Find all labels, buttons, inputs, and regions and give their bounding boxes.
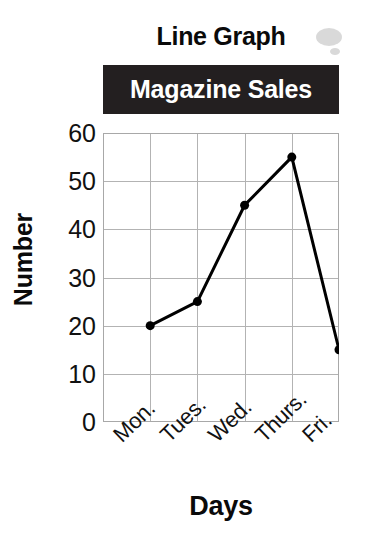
x-axis-tick-label: Thurs. bbox=[250, 387, 312, 448]
x-axis-tick-label: Wed. bbox=[203, 394, 257, 448]
line-graph-figure: Line Graph Magazine Sales 0102030405060 … bbox=[0, 0, 367, 559]
x-axis-title: Days bbox=[103, 491, 339, 522]
x-axis-tick-label: Tues. bbox=[155, 392, 211, 448]
x-axis-tick-labels: Mon.Tues.Wed.Thurs.Fri. bbox=[0, 0, 367, 559]
x-axis-tick-label: Mon. bbox=[108, 396, 161, 448]
